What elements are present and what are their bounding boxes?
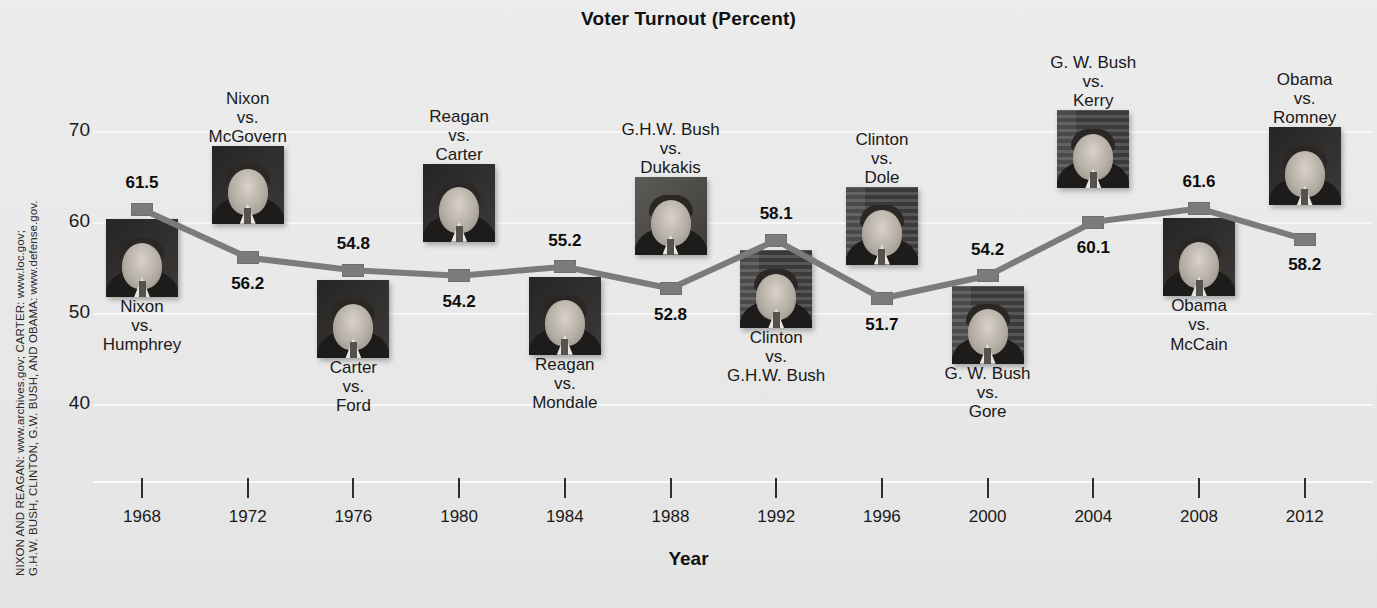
annotation-caption-line-2: vs. [183, 108, 313, 127]
data-marker-1980[interactable] [448, 269, 470, 282]
annotation-caption-line-1: Clinton [817, 130, 947, 149]
annotation-1972: Nixonvs.McGovern [183, 89, 313, 224]
clinton-1992-photo [740, 250, 812, 328]
photo-tie [773, 312, 780, 328]
x-axis-tick-1988 [670, 478, 672, 498]
x-axis-tick-2008 [1198, 478, 1200, 498]
x-axis-label-1984: 1984 [530, 507, 600, 527]
carter-1976-photo [317, 280, 389, 358]
clinton-1996-photo [846, 187, 918, 265]
annotation-caption-line-3: Dukakis [606, 158, 736, 177]
x-axis-tick-1980 [458, 478, 460, 498]
data-marker-1972[interactable] [237, 251, 259, 264]
annotation-caption-line-2: vs. [606, 139, 736, 158]
x-axis-tick-1968 [141, 478, 143, 498]
annotation-caption-line-3: Carter [394, 145, 524, 164]
x-axis-tick-1984 [564, 478, 566, 498]
data-label-1972: 56.2 [203, 274, 293, 294]
annotation-caption-line-1: Nixon [77, 297, 207, 316]
photo-tie [561, 339, 568, 355]
data-label-1992: 58.1 [731, 204, 821, 224]
annotation-caption-line-1: Carter [288, 358, 418, 377]
data-marker-2012[interactable] [1294, 233, 1316, 246]
annotation-caption-line-1: G. W. Bush [923, 364, 1053, 383]
annotation-caption-line-1: Clinton [711, 328, 841, 347]
chart-canvas: NIXON AND REAGAN: www.archives.gov; CART… [0, 0, 1377, 608]
annotation-caption-1988: G.H.W. Bushvs.Dukakis [606, 120, 736, 177]
x-axis-tick-2004 [1092, 478, 1094, 498]
x-axis-tick-1992 [775, 478, 777, 498]
x-axis-tick-1996 [881, 478, 883, 498]
annotation-caption-line-2: vs. [711, 347, 841, 366]
annotation-caption-line-3: McCain [1134, 335, 1264, 354]
photo-tie [1090, 172, 1097, 188]
data-marker-2004[interactable] [1082, 216, 1104, 229]
annotation-caption-line-2: vs. [923, 383, 1053, 402]
nixon-1972-photo [212, 146, 284, 224]
x-axis-label-2004: 2004 [1058, 507, 1128, 527]
annotation-caption-line-3: Mondale [500, 393, 630, 412]
data-marker-1976[interactable] [342, 264, 364, 277]
annotation-caption-line-2: vs. [1240, 89, 1370, 108]
nixon-1968-photo [106, 219, 178, 297]
photo-tie [1196, 280, 1203, 296]
annotation-caption-1968: Nixonvs.Humphrey [77, 297, 207, 354]
annotation-caption-line-1: Nixon [183, 89, 313, 108]
data-marker-2008[interactable] [1188, 202, 1210, 215]
x-axis-label-1988: 1988 [636, 507, 706, 527]
data-label-1980: 54.2 [414, 292, 504, 312]
x-axis-tick-2000 [987, 478, 989, 498]
annotation-caption-line-2: vs. [288, 377, 418, 396]
annotation-caption-2008: Obamavs.McCain [1134, 296, 1264, 353]
annotation-1984: Reaganvs.Mondale [500, 277, 630, 412]
annotation-caption-line-1: Reagan [500, 355, 630, 374]
annotation-caption-line-3: Dole [817, 168, 947, 187]
x-axis-label-2000: 2000 [953, 507, 1023, 527]
x-axis-tick-1972 [247, 478, 249, 498]
annotation-caption-2000: G. W. Bushvs.Gore [923, 364, 1053, 421]
data-label-1968: 61.5 [97, 173, 187, 193]
annotation-caption-line-1: Obama [1134, 296, 1264, 315]
data-label-2000: 54.2 [943, 240, 1033, 260]
data-marker-1968[interactable] [131, 203, 153, 216]
annotation-2008: Obamavs.McCain [1134, 218, 1264, 353]
annotation-caption-line-3: Gore [923, 402, 1053, 421]
y-axis-label-40: 40 [38, 392, 90, 414]
annotation-caption-line-2: vs. [1028, 72, 1158, 91]
data-marker-1984[interactable] [554, 260, 576, 273]
x-axis-line [93, 481, 1373, 483]
data-marker-1988[interactable] [660, 282, 682, 295]
annotation-caption-line-3: Romney [1240, 108, 1370, 127]
gridline-40 [93, 404, 1373, 406]
annotation-1992: Clintonvs.G.H.W. Bush [711, 250, 841, 385]
annotation-1988: G.H.W. Bushvs.Dukakis [606, 120, 736, 255]
annotation-caption-line-1: G. W. Bush [1028, 53, 1158, 72]
annotation-caption-line-2: vs. [500, 374, 630, 393]
photo-tie [139, 281, 146, 297]
annotation-caption-line-1: G.H.W. Bush [606, 120, 736, 139]
x-axis-label-1968: 1968 [107, 507, 177, 527]
annotation-caption-line-2: vs. [1134, 315, 1264, 334]
gw-bush-2000-photo [952, 286, 1024, 364]
data-marker-1996[interactable] [871, 292, 893, 305]
photo-tie [667, 239, 674, 255]
annotation-caption-line-3: Humphrey [77, 335, 207, 354]
annotation-caption-line-1: Obama [1240, 70, 1370, 89]
y-axis-label-70: 70 [38, 119, 90, 141]
annotation-caption-line-3: G.H.W. Bush [711, 366, 841, 385]
x-axis-title: Year [0, 548, 1377, 570]
annotation-caption-line-3: Ford [288, 396, 418, 415]
annotation-2012: Obamavs.Romney [1240, 70, 1370, 205]
annotation-caption-line-1: Reagan [394, 107, 524, 126]
photo-tie [244, 208, 251, 224]
data-label-1996: 51.7 [837, 315, 927, 335]
data-marker-1992[interactable] [765, 234, 787, 247]
annotation-1996: Clintonvs.Dole [817, 130, 947, 265]
photo-tie [1301, 189, 1308, 205]
annotation-caption-line-3: McGovern [183, 127, 313, 146]
data-label-1984: 55.2 [520, 231, 610, 251]
annotation-caption-1976: Cartervs.Ford [288, 358, 418, 415]
data-marker-2000[interactable] [977, 269, 999, 282]
x-axis-tick-2012 [1304, 478, 1306, 498]
annotation-caption-1972: Nixonvs.McGovern [183, 89, 313, 146]
